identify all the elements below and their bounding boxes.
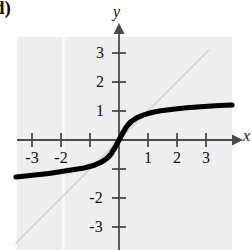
x-tick-label-2: 2 [169, 150, 185, 166]
reference-line-y-equals-x [15, 50, 209, 244]
x-tick-label-1: 1 [140, 150, 156, 166]
x-tick-label--2: -2 [49, 150, 73, 166]
x-tick-label-3: 3 [198, 150, 214, 166]
y-tick-label-3: 3 [92, 45, 108, 61]
y-axis-label: y [113, 4, 120, 20]
y-tick-label--2: -2 [84, 190, 108, 206]
y-tick-label-2: 2 [92, 74, 108, 90]
x-axis-arrow-icon [232, 135, 243, 146]
x-tick-label--3: -3 [20, 150, 44, 166]
y-tick-label-1: 1 [92, 103, 108, 119]
figure-panel: d) y x [0, 0, 252, 250]
graph-canvas [0, 0, 252, 250]
y-axis-arrow-icon [114, 23, 125, 34]
y-tick-label--3: -3 [84, 219, 108, 235]
x-axis-label: x [243, 128, 250, 144]
function-curve [16, 105, 232, 177]
